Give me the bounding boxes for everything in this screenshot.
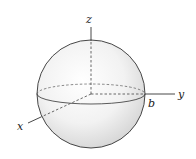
sphere-diagram: z y b x [0,0,196,159]
x-axis [28,117,41,123]
radius-label: b [148,97,155,110]
z-axis-label: z [85,13,92,26]
y-axis-label: y [177,88,185,101]
x-axis-label: x [17,120,24,133]
diagram-canvas: z y b x [0,0,196,159]
